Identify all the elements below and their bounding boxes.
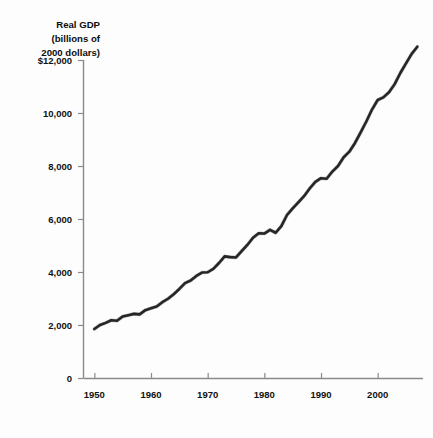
- x-tick-label: 2000: [367, 389, 388, 400]
- y-tick-label: $12,000: [38, 55, 72, 66]
- real-gdp-chart: Real GDP (billions of 2000 dollars) $12,…: [0, 0, 433, 438]
- x-tick-label: 1960: [140, 389, 161, 400]
- axis-title-line-2: (billions of: [52, 33, 101, 44]
- y-tick-label: 6,000: [48, 214, 72, 225]
- x-axis: 195019601970198019902000: [84, 373, 388, 400]
- axis-title-group: Real GDP (billions of 2000 dollars): [41, 19, 100, 58]
- x-tick-label: 1970: [197, 389, 218, 400]
- y-tick-label: 0: [67, 373, 72, 384]
- y-axis: $12,00010,0008,0006,0004,0002,0000: [38, 55, 83, 384]
- y-tick-label: 4,000: [48, 267, 72, 278]
- y-tick-label: 10,000: [43, 108, 72, 119]
- x-tick-label: 1950: [84, 389, 105, 400]
- y-tick-label: 8,000: [48, 161, 72, 172]
- series-group: [94, 47, 417, 329]
- real-gdp-line-shadow: [94, 47, 417, 329]
- x-tick-label: 1990: [310, 389, 331, 400]
- axis-title-line-1: Real GDP: [56, 19, 100, 30]
- x-tick-label: 1980: [254, 389, 275, 400]
- real-gdp-line: [94, 47, 417, 329]
- chart-canvas: Real GDP (billions of 2000 dollars) $12,…: [0, 0, 433, 438]
- y-tick-label: 2,000: [48, 320, 72, 331]
